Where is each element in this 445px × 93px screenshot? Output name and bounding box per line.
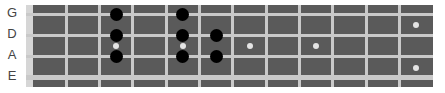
note-marker-a-fret-3: [110, 50, 123, 63]
note-marker-g-fret-3: [110, 8, 123, 21]
note-marker-a-fret-6: [210, 50, 223, 63]
inlay-dot-icon: [180, 43, 186, 49]
inlay-dot-icon: [413, 65, 419, 71]
note-marker-a-fret-5: [176, 50, 189, 63]
string-label-a: A: [5, 48, 19, 62]
string-a: [26, 55, 433, 58]
note-marker-d-fret-6: [210, 29, 223, 42]
inlay-dot-icon: [313, 43, 319, 49]
note-marker-g-fret-5: [176, 8, 189, 21]
note-marker-d-fret-5: [176, 29, 189, 42]
inlay-dot-icon: [247, 43, 253, 49]
inlay-dot-icon: [413, 22, 419, 28]
string-label-d: D: [5, 27, 19, 41]
fretboard: [33, 5, 433, 87]
inlay-dot-icon: [113, 43, 119, 49]
note-marker-d-fret-3: [110, 29, 123, 42]
string-label-g: G: [5, 6, 19, 20]
string-d: [26, 34, 433, 37]
string-e: [26, 75, 433, 80]
string-label-e: E: [5, 69, 19, 83]
string-g: [26, 13, 433, 16]
